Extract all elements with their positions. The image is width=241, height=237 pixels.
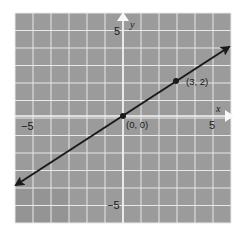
x-tick-neg5: −5	[21, 120, 34, 132]
y-tick-neg5: −5	[107, 199, 120, 211]
origin-label: (0, 0)	[126, 119, 148, 130]
y-tick-5: 5	[114, 25, 120, 37]
point-3-2	[173, 78, 179, 84]
y-axis-name: y	[129, 19, 135, 30]
point-3-2-label: (3, 2)	[186, 76, 208, 87]
x-axis-name: x	[215, 103, 221, 114]
x-tick-5: 5	[209, 119, 215, 131]
coordinate-plane: y x 5 5 −5 −5 (0, 0) (3, 2)	[0, 0, 241, 237]
